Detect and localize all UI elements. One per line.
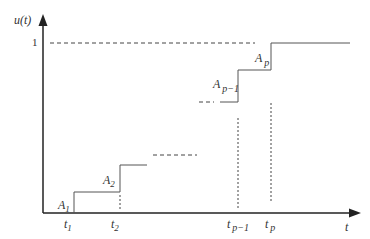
amplitude-label-ap: Ap [254, 51, 269, 68]
step-function-diagram: u(t) 1 t A1 A2 Ap−1 Ap t1 t2 tp−1 tp [0, 0, 370, 239]
x-axis-label: t [345, 220, 349, 234]
time-label-t2: t2 [111, 217, 119, 233]
time-label-t1: t1 [64, 217, 72, 233]
y-tick-one: 1 [32, 36, 38, 48]
step-path-start [74, 165, 147, 213]
time-label-tp-1: tp−1 [227, 217, 249, 233]
amplitude-label-a2: A2 [102, 173, 115, 189]
step-path-end [220, 43, 350, 102]
time-label-tp: tp [265, 217, 275, 233]
diagram-canvas: u(t) 1 t A1 A2 Ap−1 Ap t1 t2 tp−1 tp [0, 0, 370, 239]
y-axis-label: u(t) [14, 13, 31, 27]
amplitude-label-a1: A1 [57, 198, 70, 214]
amplitude-label-ap-1: Ap−1 [212, 77, 239, 94]
